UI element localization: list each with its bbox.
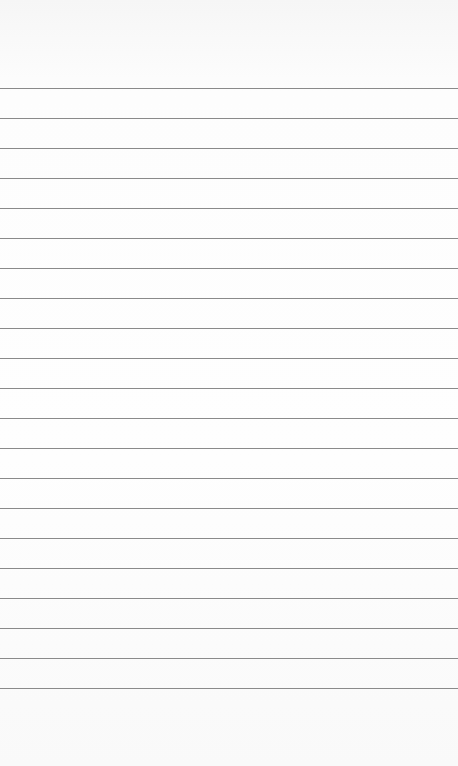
ruled-line bbox=[0, 448, 458, 449]
ruled-line bbox=[0, 118, 458, 119]
ruled-line bbox=[0, 478, 458, 479]
ruled-line bbox=[0, 298, 458, 299]
ruled-line bbox=[0, 148, 458, 149]
ruled-line bbox=[0, 388, 458, 389]
lined-paper-sheet bbox=[0, 0, 458, 766]
ruled-line bbox=[0, 658, 458, 659]
ruled-line bbox=[0, 88, 458, 89]
ruled-line bbox=[0, 508, 458, 509]
ruled-line bbox=[0, 178, 458, 179]
ruled-line bbox=[0, 418, 458, 419]
ruled-line bbox=[0, 358, 458, 359]
ruled-line bbox=[0, 328, 458, 329]
ruled-line bbox=[0, 268, 458, 269]
ruled-line bbox=[0, 688, 458, 689]
ruled-line bbox=[0, 208, 458, 209]
ruled-line bbox=[0, 538, 458, 539]
ruled-line bbox=[0, 598, 458, 599]
ruled-line bbox=[0, 628, 458, 629]
ruled-line bbox=[0, 568, 458, 569]
ruled-line bbox=[0, 238, 458, 239]
